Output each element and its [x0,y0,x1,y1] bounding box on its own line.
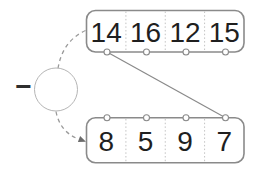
top-cell-value: 16 [130,17,161,48]
bottom-register: 8 5 9 7 [87,115,245,163]
port-icon [144,115,150,121]
operator-circle [35,68,78,111]
operator-node: − [15,68,77,111]
dashed-link-bottom [56,112,79,140]
port-icon [223,115,229,121]
arrowhead-icon [78,136,86,142]
port-icon [223,49,229,55]
port-icon [183,49,189,55]
top-register: 14 16 12 15 [87,11,245,56]
operator-symbol: − [15,71,31,102]
port-icon [104,49,110,55]
bottom-cell-value: 5 [138,126,154,157]
bottom-cell-value: 8 [98,126,114,157]
top-cell-value: 12 [169,17,200,48]
dashed-link-top [58,31,86,69]
diagram-svg: − 14 16 12 15 8 5 9 7 [0,0,261,173]
port-icon [183,115,189,121]
bottom-cell-value: 9 [177,126,193,157]
top-cell-value: 14 [91,17,122,48]
port-icon [144,49,150,55]
subtraction-diagram: − 14 16 12 15 8 5 9 7 [0,0,261,173]
connector-line [107,52,226,118]
port-icon [104,115,110,121]
bottom-cell-value: 7 [217,126,233,157]
top-cell-value: 15 [209,17,240,48]
